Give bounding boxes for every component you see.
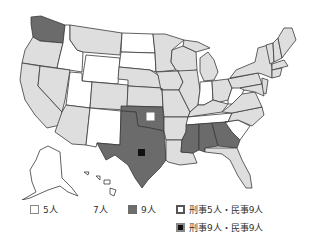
swatch-nine	[128, 205, 137, 214]
state-connecticut	[272, 68, 282, 78]
us-jury-size-map	[0, 0, 310, 200]
state-new-york	[230, 45, 272, 78]
state-hawaii	[84, 172, 116, 196]
swatch-criminal9-civil9	[176, 223, 185, 232]
state-alaska	[22, 146, 78, 200]
swatch-criminal5-civil9	[176, 205, 185, 214]
state-maine	[278, 28, 296, 58]
legend-mixed-b-label: 刑事9人・民事9人	[189, 221, 263, 234]
swatch-five	[30, 205, 39, 214]
state-michigan	[200, 52, 218, 81]
legend-seven: 7人	[80, 203, 108, 216]
legend-seven-label: 7人	[93, 203, 108, 216]
legend-nine-label: 9人	[141, 203, 156, 216]
legend-nine: 9人	[128, 203, 156, 216]
marker-oklahoma-criminal5-civil9	[147, 113, 154, 120]
state-north-dakota	[121, 33, 155, 53]
state-new-mexico	[86, 108, 121, 147]
legend-five-label: 5人	[43, 203, 58, 216]
legend-mixed-a: 刑事5人・民事9人	[176, 203, 263, 216]
legend-mixed-b: 刑事9人・民事9人	[176, 221, 263, 234]
state-kansas	[127, 86, 163, 107]
legend-five: 5人	[30, 203, 58, 216]
legend-mixed-a-label: 刑事5人・民事9人	[189, 203, 263, 216]
state-montana	[70, 25, 122, 55]
marker-texas-criminal9-civil9	[138, 149, 145, 156]
state-florida	[205, 148, 252, 188]
state-wyoming	[82, 55, 120, 84]
